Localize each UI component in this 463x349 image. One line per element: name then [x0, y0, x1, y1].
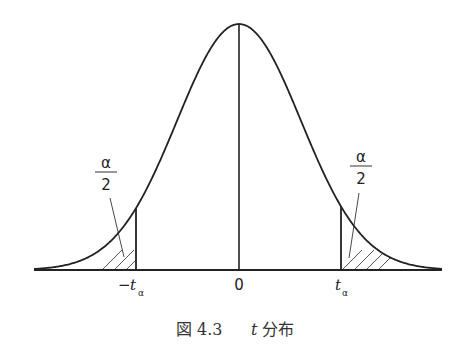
right-fraction-denominator: 2: [356, 170, 366, 188]
left-tick-label: − t α: [118, 276, 144, 298]
caption-text: 分布: [262, 320, 294, 339]
right-tick-label: t α: [335, 276, 348, 298]
caption-number: 図 4.3: [176, 320, 223, 339]
left-tick-var: t: [130, 276, 137, 294]
figure-caption: 図 4.3 t 分布: [176, 320, 294, 339]
caption-variable: t: [251, 320, 258, 339]
density-curve: [34, 24, 442, 269]
right-leader-line: [349, 193, 359, 258]
left-alpha-half-label: α 2: [95, 154, 117, 194]
right-fraction-numerator: α: [356, 148, 366, 166]
right-tail-hatching: [340, 250, 398, 272]
left-tail-hatching: [100, 250, 158, 272]
right-alpha-half-label: α 2: [350, 148, 372, 188]
left-tick-subscript: α: [138, 288, 144, 298]
t-distribution-diagram: α 2 α 2 − t α 0 t α 図 4.3 t 分布: [0, 0, 463, 349]
right-tick-subscript: α: [342, 288, 348, 298]
minus-sign: −: [118, 276, 131, 294]
center-tick-label: 0: [234, 276, 244, 294]
left-fraction-denominator: 2: [101, 176, 111, 194]
left-fraction-numerator: α: [101, 154, 111, 172]
right-tick-var: t: [335, 276, 342, 294]
